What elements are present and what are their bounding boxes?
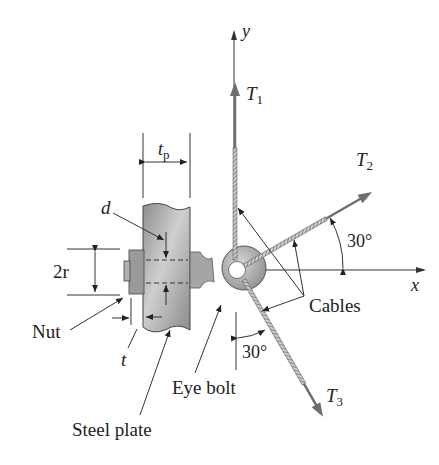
eye-bolt-diagram: y x T1 T2 T3 30° 30° tp d 2r t Nut Steel…: [0, 0, 439, 465]
force-t2-label: T2: [356, 150, 373, 172]
cable-t1: [233, 148, 237, 260]
angle-t2-label: 30°: [347, 232, 372, 250]
nut-label: Nut: [32, 322, 61, 341]
angle-arc-t3: [238, 330, 265, 338]
force-t1-label: T1: [246, 84, 263, 106]
nut-size-label: 2r: [53, 262, 69, 281]
cable-t2: [242, 188, 375, 271]
plate-thickness-label: tp: [158, 140, 170, 161]
angle-t3-label: 30°: [242, 343, 267, 361]
steel-plate-label: Steel plate: [72, 420, 152, 439]
nut-thickness-label: t: [121, 350, 126, 369]
2r-dimension: [67, 249, 120, 295]
eye-bolt-label: Eye bolt: [172, 378, 236, 397]
bolt-neck: [190, 252, 214, 288]
bolt-diameter-label: d: [101, 198, 111, 217]
y-axis-label: y: [242, 22, 250, 40]
angle-arc-t2: [330, 218, 343, 268]
cables-label: Cables: [309, 296, 361, 315]
force-t3-label: T3: [326, 386, 343, 408]
x-axis-label: x: [411, 276, 419, 294]
nut: [124, 250, 144, 294]
steel-plate: [143, 203, 190, 331]
